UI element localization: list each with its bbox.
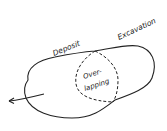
outer-outline [25,46,155,118]
overlap-right-boundary [95,51,118,102]
diagram-canvas: Deposit Excavation Over- lapping [0,0,167,131]
excavation-label: Excavation [116,16,157,42]
